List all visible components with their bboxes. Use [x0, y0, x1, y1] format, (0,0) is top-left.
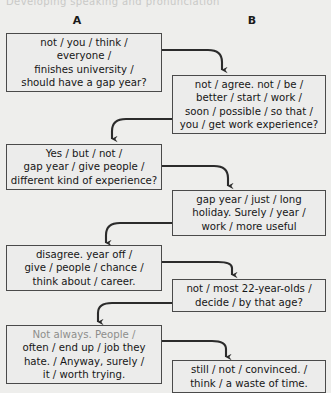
dialogue-box-a1-text: not / you / think / everyone / finishes … — [10, 36, 158, 89]
dialogue-box-a3-text: disagree. year off / give / people / cha… — [10, 248, 158, 288]
arrow-a4-b4 — [162, 341, 226, 357]
arrow-b1-a2 — [112, 119, 172, 139]
dialogue-box-b3[interactable]: not / most 22-year-olds / decide / by th… — [172, 279, 326, 312]
dialogue-box-b2[interactable]: gap year / just / long holiday. Surely /… — [172, 190, 326, 236]
dialogue-box-b2-text: gap year / just / long holiday. Surely /… — [176, 193, 322, 233]
arrow-a3-b3 — [162, 262, 232, 275]
cut-off-heading: Developing speaking and pronunciation — [6, 0, 306, 8]
dialogue-flow-diagram: Developing speaking and pronunciation A … — [0, 0, 331, 393]
dialogue-box-b3-text: not / most 22-year-olds / decide / by th… — [176, 282, 322, 308]
dialogue-box-b1[interactable]: not / agree. not / be / better / start /… — [172, 75, 326, 134]
arrow-b2-a3 — [106, 223, 172, 243]
dialogue-box-a1[interactable]: not / you / think / everyone / finishes … — [6, 33, 162, 92]
dialogue-box-b1-text: not / agree. not / be / better / start /… — [176, 78, 322, 131]
dialogue-box-a2[interactable]: Yes / but / not / gap year / give people… — [6, 144, 162, 190]
dialogue-box-b4-text: still / not / convinced. / think / a was… — [176, 363, 322, 389]
dialogue-box-a2-text: Yes / but / not / gap year / give people… — [10, 147, 158, 187]
dialogue-box-b4[interactable]: still / not / convinced. / think / a was… — [172, 360, 326, 393]
column-header-b: B — [215, 14, 289, 27]
column-header-a: A — [40, 14, 114, 27]
dialogue-box-a3[interactable]: disagree. year off / give / people / cha… — [6, 245, 162, 291]
arrow-a2-b2 — [162, 166, 228, 186]
dialogue-box-a4-text: Not always. People / often / end up / jo… — [10, 328, 158, 381]
dialogue-box-a4[interactable]: Not always. People / often / end up / jo… — [6, 325, 162, 384]
arrow-a1-b1 — [162, 50, 222, 70]
arrow-b3-a4 — [98, 303, 172, 322]
